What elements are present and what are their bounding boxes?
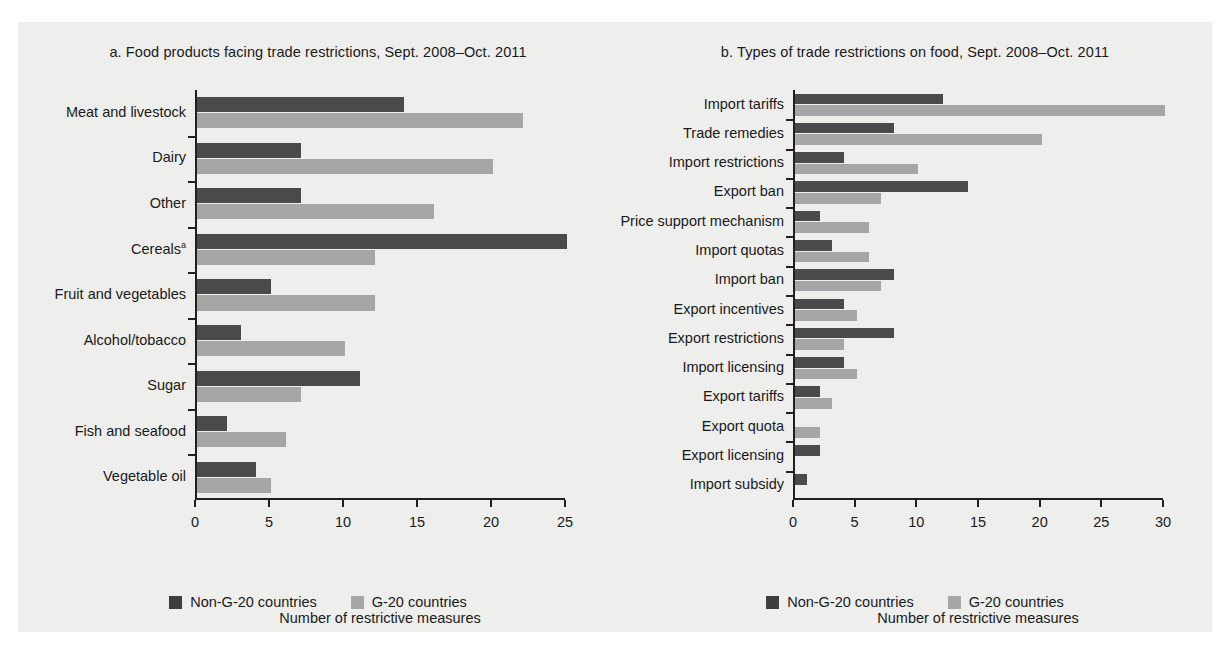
chart-b-category-group: Import restrictions xyxy=(793,149,1163,178)
chart-b-bar-g20 xyxy=(795,427,820,438)
legend-item-g20: G-20 countries xyxy=(351,594,467,610)
chart-b-y-tick xyxy=(786,119,793,121)
chart-b-bar-g20 xyxy=(795,222,869,233)
legend-label-g20: G-20 countries xyxy=(372,594,467,610)
chart-a-bar-g20 xyxy=(197,113,523,128)
chart-b-category-group: Export incentives xyxy=(793,295,1163,324)
chart-b-bar-non-g20 xyxy=(795,269,894,280)
chart-a-bar-g20 xyxy=(197,295,375,310)
chart-b-category-group: Price support mechanism xyxy=(793,207,1163,236)
chart-a-y-tick xyxy=(188,318,195,320)
chart-b-bar-non-g20 xyxy=(795,94,943,105)
chart-b-y-tick xyxy=(786,471,793,473)
chart-b-bar-non-g20 xyxy=(795,299,844,310)
legend-item-non-g20: Non-G-20 countries xyxy=(766,594,914,610)
chart-b-y-tick xyxy=(786,266,793,268)
chart-b-bar-non-g20 xyxy=(795,328,894,339)
chart-a-category-group: Dairy xyxy=(195,136,565,182)
chart-b-bar-g20 xyxy=(795,339,844,350)
chart-b-x-tick xyxy=(1162,500,1164,507)
chart-b-category-group: Export ban xyxy=(793,178,1163,207)
chart-a-y-tick xyxy=(188,227,195,229)
chart-b-bar-g20 xyxy=(795,369,857,380)
chart-b-category-label: Import tariffs xyxy=(704,97,784,112)
chart-b-x-tick-label: 25 xyxy=(1093,514,1109,530)
chart-b-bar-g20 xyxy=(795,134,1042,145)
chart-b-y-tick xyxy=(786,207,793,209)
chart-a-x-tick-label: 5 xyxy=(265,514,273,530)
chart-b-category-group: Import ban xyxy=(793,266,1163,295)
legend-item-g20: G-20 countries xyxy=(948,594,1064,610)
chart-b-x-tick xyxy=(915,500,917,507)
chart-a-category-group: Fruit and vegetables xyxy=(195,272,565,318)
figure-panel-container: a. Food products facing trade restrictio… xyxy=(18,22,1212,632)
legend-label-g20: G-20 countries xyxy=(969,594,1064,610)
legend-label-non-g20: Non-G-20 countries xyxy=(787,594,914,610)
chart-a-category-label: Dairy xyxy=(152,151,186,166)
chart-b-y-tick xyxy=(786,295,793,297)
chart-b-category-group: Import tariffs xyxy=(793,90,1163,119)
chart-a-y-tick xyxy=(188,136,195,138)
chart-b-title: b. Types of trade restrictions on food, … xyxy=(618,44,1212,60)
chart-a-y-tick xyxy=(188,409,195,411)
chart-b-y-tick xyxy=(786,236,793,238)
chart-b-x-tick xyxy=(1100,500,1102,507)
chart-a-y-tick xyxy=(188,272,195,274)
chart-a-x-tick xyxy=(268,500,270,507)
chart-a-x-tick xyxy=(416,500,418,507)
chart-a-bar-g20 xyxy=(197,432,286,447)
chart-a-y-tick xyxy=(188,363,195,365)
chart-b-y-tick xyxy=(786,354,793,356)
chart-b-y-tick xyxy=(786,412,793,414)
chart-b-bar-non-g20 xyxy=(795,445,820,456)
chart-a-bar-non-g20 xyxy=(197,143,301,158)
chart-b-bar-g20 xyxy=(795,252,869,263)
chart-b-category-label: Export licensing xyxy=(682,448,784,463)
chart-a-category-group: Meat and livestock xyxy=(195,90,565,136)
chart-b-y-tick xyxy=(786,441,793,443)
chart-a-bar-non-g20 xyxy=(197,371,360,386)
chart-b-bar-non-g20 xyxy=(795,240,832,251)
chart-a-category-label: Sugar xyxy=(147,378,186,393)
chart-b-x-tick-label: 30 xyxy=(1155,514,1171,530)
chart-b-y-tick xyxy=(786,178,793,180)
chart-b-y-tick xyxy=(786,324,793,326)
chart-b-x-axis-label: Number of restrictive measures xyxy=(793,610,1163,626)
chart-a-bar-g20 xyxy=(197,159,493,174)
chart-b-bar-non-g20 xyxy=(795,181,968,192)
chart-a-y-tick xyxy=(188,181,195,183)
chart-a-plot-area: Number of restrictive measures 051015202… xyxy=(195,90,565,500)
chart-b-category-label: Export ban xyxy=(714,185,784,200)
chart-a-bar-non-g20 xyxy=(197,462,256,477)
chart-a-category-group: Vegetable oil xyxy=(195,454,565,500)
chart-a-x-tick-label: 0 xyxy=(191,514,199,530)
chart-b-category-label: Export quota xyxy=(702,419,784,434)
chart-panel-a: a. Food products facing trade restrictio… xyxy=(18,22,618,632)
chart-a-x-tick-label: 25 xyxy=(557,514,573,530)
legend-item-non-g20: Non-G-20 countries xyxy=(169,594,317,610)
chart-b-bar-g20 xyxy=(795,398,832,409)
chart-b-category-label: Price support mechanism xyxy=(614,214,784,229)
chart-a-x-tick-label: 10 xyxy=(335,514,351,530)
chart-a-x-axis-label: Number of restrictive measures xyxy=(195,610,565,626)
chart-a-category-group: Alcohol/tobacco xyxy=(195,318,565,364)
chart-a-bar-g20 xyxy=(197,250,375,265)
chart-b-x-tick-label: 0 xyxy=(789,514,797,530)
chart-a-category-label: Fruit and vegetables xyxy=(55,287,186,302)
chart-b-x-tick xyxy=(1039,500,1041,507)
chart-b-bar-g20 xyxy=(795,164,918,175)
chart-b-bar-non-g20 xyxy=(795,123,894,134)
chart-a-legend: Non-G-20 countries G-20 countries xyxy=(18,594,618,610)
chart-a-category-label: Other xyxy=(150,196,186,211)
legend-swatch-non-g20-icon xyxy=(766,596,779,609)
chart-b-category-group: Import quotas xyxy=(793,236,1163,265)
chart-b-category-label: Export restrictions xyxy=(668,331,784,346)
chart-a-x-tick xyxy=(194,500,196,507)
chart-b-y-tick xyxy=(786,383,793,385)
chart-b-bar-g20 xyxy=(795,310,857,321)
chart-b-category-group: Import subsidy xyxy=(793,471,1163,500)
chart-a-category-label: Vegetable oil xyxy=(103,470,186,485)
legend-swatch-g20-icon xyxy=(948,596,961,609)
chart-b-y-tick xyxy=(786,149,793,151)
chart-b-x-tick-label: 10 xyxy=(908,514,924,530)
